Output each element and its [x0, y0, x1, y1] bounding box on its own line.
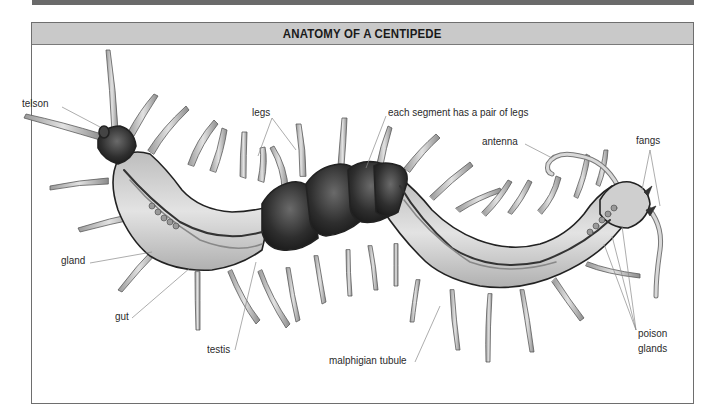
label-testis: testis — [207, 343, 230, 356]
centipede-illustration — [0, 0, 718, 411]
label-glands: glands — [638, 342, 667, 355]
label-malphigian-tubule: malphigian tubule — [329, 354, 407, 367]
label-segment-legs: each segment has a pair of legs — [388, 106, 528, 119]
label-gut: gut — [115, 310, 129, 323]
label-telson: telson — [22, 97, 48, 110]
label-legs: legs — [252, 106, 270, 119]
label-poison: poison — [638, 327, 667, 340]
label-antenna: antenna — [482, 135, 518, 148]
label-fangs: fangs — [636, 134, 660, 147]
label-gland: gland — [61, 254, 85, 267]
